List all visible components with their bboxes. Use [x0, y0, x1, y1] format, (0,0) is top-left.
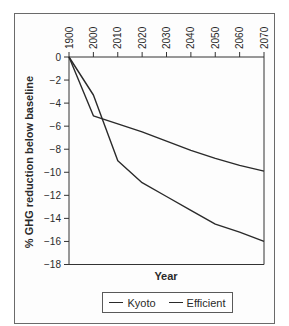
y-tick-label: −16 [44, 236, 61, 247]
x-tick-label: 1900 [64, 26, 75, 49]
series-line-efficient [69, 57, 264, 171]
x-tick-label: 2060 [234, 26, 245, 49]
y-tick-label: −2 [50, 75, 62, 86]
y-tick-label: 0 [55, 52, 61, 63]
x-tick-label: 2020 [137, 26, 148, 49]
x-tick-label: 2000 [88, 26, 99, 49]
y-tick-label: −4 [50, 98, 62, 109]
x-tick-label: 2030 [161, 26, 172, 49]
legend-label-efficient: Efficient [187, 297, 226, 309]
x-tick-label: 2010 [112, 26, 123, 49]
legend: Kyoto Efficient [102, 292, 233, 313]
efficient-line-swatch-icon [169, 302, 183, 303]
y-tick-label: −18 [44, 259, 61, 270]
x-tick-label: 2050 [210, 26, 221, 49]
y-tick-label: −6 [50, 121, 62, 132]
x-axis-label: Year [154, 270, 177, 282]
series-line-kyoto [69, 57, 264, 241]
line-chart: 1900200020102020203020402050206020700−2−… [0, 0, 289, 326]
y-axis-label: % GHG reduction below baseline [23, 76, 35, 248]
y-tick-label: −8 [50, 144, 62, 155]
legend-item-efficient: Efficient [169, 297, 226, 309]
kyoto-line-swatch-icon [109, 302, 123, 303]
y-tick-label: −14 [44, 213, 61, 224]
x-tick-label: 2070 [259, 26, 270, 49]
y-tick-label: −10 [44, 167, 61, 178]
x-tick-label: 2040 [185, 26, 196, 49]
legend-item-kyoto: Kyoto [109, 297, 155, 309]
legend-label-kyoto: Kyoto [127, 297, 155, 309]
y-tick-label: −12 [44, 190, 61, 201]
